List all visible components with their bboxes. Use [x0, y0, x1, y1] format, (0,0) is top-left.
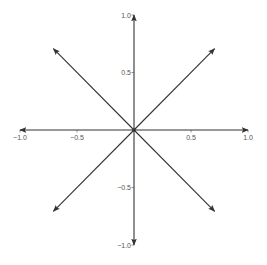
- y-tick-label: −1.0: [117, 242, 131, 249]
- vector-arrow: [53, 49, 134, 130]
- x-tick-label: −1.0: [13, 134, 27, 141]
- vector-arrow: [134, 130, 215, 211]
- y-tick-label: −0.5: [117, 184, 131, 191]
- x-tick-label: −0.5: [70, 134, 84, 141]
- x-tick-label: 0.5: [186, 134, 196, 141]
- vector-plot: −1.0−0.50.51.01.00.5−0.5−1.0: [0, 0, 267, 265]
- origin-point: [132, 128, 136, 132]
- vector-arrow: [134, 49, 215, 130]
- y-tick-label: 0.5: [121, 69, 131, 76]
- y-tick-label: 1.0: [121, 12, 131, 19]
- x-tick-label: 1.0: [243, 134, 253, 141]
- vector-arrow: [53, 130, 134, 211]
